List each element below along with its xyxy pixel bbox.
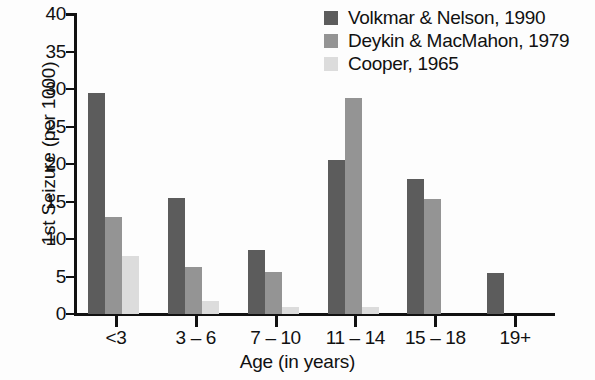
bar <box>328 160 345 315</box>
y-axis-tick <box>66 201 75 203</box>
legend-item: Deykin & MacMahon, 1979 <box>324 29 569 52</box>
y-axis-tick <box>66 163 75 165</box>
legend-color-swatch <box>324 57 338 71</box>
x-axis-tick-label: 15 – 18 <box>405 327 466 349</box>
legend-color-swatch <box>324 11 338 25</box>
y-axis-tick <box>66 88 75 90</box>
bar <box>487 273 504 314</box>
y-axis-tick-label: 0 <box>22 304 66 323</box>
y-axis-tick-label: 40 <box>22 4 66 23</box>
legend-item: Volkmar & Nelson, 1990 <box>324 6 569 29</box>
bar <box>248 250 265 314</box>
bar <box>168 198 185 314</box>
y-axis-tick <box>66 276 75 278</box>
bar <box>345 98 362 314</box>
y-axis-tick-label-wrap: 0 <box>0 304 66 323</box>
bar <box>407 179 424 314</box>
bar <box>105 217 122 314</box>
bar-chart-figure: 0510152025303540 1st Seizure (per 1000) … <box>0 0 595 380</box>
x-axis-tick <box>275 316 278 327</box>
y-axis-tick-label-wrap: 40 <box>0 4 66 23</box>
bar <box>202 301 219 315</box>
x-axis-tick <box>354 316 357 327</box>
x-axis-tick-label: 3 – 6 <box>176 327 216 349</box>
x-axis-tick <box>195 316 198 327</box>
x-axis-tick-label: <3 <box>105 327 126 349</box>
legend-item: Cooper, 1965 <box>324 52 569 75</box>
legend-color-swatch <box>324 34 338 48</box>
bar <box>185 267 202 314</box>
x-axis-tick-label: 11 – 14 <box>326 327 385 349</box>
y-axis-tick <box>66 51 75 53</box>
x-axis-tick-label: 7 – 10 <box>250 327 300 349</box>
x-axis-tick <box>514 316 517 327</box>
bar <box>362 307 379 315</box>
x-axis-tick <box>115 316 118 327</box>
x-axis-title: Age (in years) <box>0 352 595 372</box>
legend: Volkmar & Nelson, 1990Deykin & MacMahon,… <box>324 6 569 75</box>
y-axis-tick <box>66 238 75 240</box>
bar <box>88 93 105 314</box>
x-axis-tick <box>434 316 437 327</box>
legend-item-label: Cooper, 1965 <box>348 53 459 74</box>
x-axis-tick-label: 19+ <box>500 327 531 349</box>
y-axis-title: 1st Seizure (per 1000) <box>39 24 58 284</box>
y-axis-tick <box>66 126 75 128</box>
y-axis-tick <box>66 13 75 15</box>
legend-item-label: Deykin & MacMahon, 1979 <box>348 30 569 51</box>
bar <box>265 272 282 314</box>
bar <box>122 256 139 314</box>
bar <box>424 199 441 315</box>
bar <box>282 307 299 315</box>
legend-item-label: Volkmar & Nelson, 1990 <box>348 7 545 28</box>
